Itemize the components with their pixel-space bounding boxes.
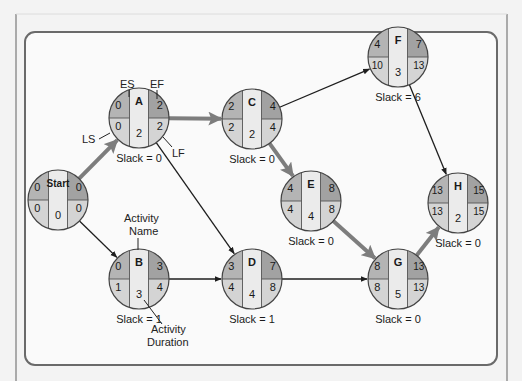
- late-finish-value: 0: [76, 202, 82, 214]
- late-start-value: 2: [228, 121, 234, 133]
- early-start-value: 3: [228, 260, 234, 272]
- activity-duration: 3: [395, 66, 401, 78]
- activity-name: Start: [47, 178, 70, 189]
- early-finish-value: 2: [157, 99, 163, 111]
- late-finish-value: 13: [413, 60, 425, 71]
- slack-label: Slack = 0: [288, 235, 334, 247]
- lf-label: LF: [172, 147, 185, 159]
- slack-label: Slack = 0: [116, 152, 162, 164]
- late-start-value: 4: [228, 281, 234, 293]
- activity-duration: 3: [136, 288, 142, 300]
- activity-name: D: [248, 256, 256, 268]
- network-diagram: 0000Start00202A2Slack = 00314B3Slack = 1…: [0, 0, 522, 381]
- ls-label: LS: [82, 133, 95, 145]
- activity-duration: 4: [308, 210, 314, 222]
- early-start-value: 4: [287, 182, 293, 194]
- early-start-value: 0: [115, 260, 121, 272]
- early-start-value: 0: [34, 181, 40, 193]
- early-finish-value: 3: [157, 260, 163, 272]
- late-finish-value: 2: [157, 120, 163, 132]
- late-start-value: 4: [287, 203, 293, 215]
- late-finish-value: 15: [473, 206, 485, 217]
- diagram-canvas: 0000Start00202A2Slack = 00314B3Slack = 1…: [0, 0, 522, 381]
- late-start-value: 13: [432, 206, 444, 217]
- late-start-value: 1: [115, 281, 121, 293]
- late-finish-value: 8: [270, 281, 276, 293]
- activity-duration: 2: [455, 212, 461, 224]
- activity-duration: 5: [395, 288, 401, 300]
- activity-name: F: [395, 34, 402, 46]
- activity-name: A: [135, 95, 143, 107]
- activity-name-label-line2: Name: [129, 225, 158, 237]
- activity-name: E: [307, 178, 314, 190]
- activity-name: C: [248, 96, 256, 108]
- slack-label: Slack = 1: [229, 313, 275, 325]
- activity-duration: 2: [249, 128, 255, 140]
- node-b: 0314B3Slack = 1: [109, 249, 169, 325]
- activity-duration-label-line1: Activity: [151, 323, 186, 335]
- slack-label: Slack = 0: [435, 237, 481, 249]
- node-d: 3748D4Slack = 1: [222, 249, 282, 325]
- ef-label: EF: [150, 78, 164, 90]
- activity-duration: 4: [249, 288, 255, 300]
- early-finish-value: 0: [76, 181, 82, 193]
- late-start-value: 0: [115, 120, 121, 132]
- late-finish-value: 8: [329, 203, 335, 215]
- node-c: 2424C2Slack = 0: [222, 89, 282, 165]
- node-e: 4848E4Slack = 0: [281, 171, 341, 247]
- early-start-value: 4: [374, 38, 380, 50]
- es-label: ES: [120, 78, 135, 90]
- early-finish-value: 7: [416, 38, 422, 50]
- early-start-value: 2: [228, 100, 234, 112]
- late-finish-value: 13: [413, 282, 425, 293]
- early-finish-value: 8: [329, 182, 335, 194]
- early-finish-value: 7: [270, 260, 276, 272]
- late-start-value: 0: [34, 202, 40, 214]
- early-start-value: 0: [115, 99, 121, 111]
- early-finish-value: 13: [413, 261, 425, 272]
- activity-duration: 0: [55, 209, 61, 221]
- activity-name: G: [394, 256, 403, 268]
- activity-duration-label-line2: Duration: [147, 336, 189, 348]
- node-a: 0202A2Slack = 0: [109, 88, 169, 164]
- activity-name: B: [135, 256, 143, 268]
- slack-label: Slack = 0: [375, 313, 421, 325]
- node-g: 813813G5Slack = 0: [368, 249, 428, 325]
- late-finish-value: 4: [270, 121, 276, 133]
- late-start-value: 8: [374, 281, 380, 293]
- node-f: 471013F3Slack = 6: [368, 27, 428, 103]
- slack-label: Slack = 6: [375, 91, 421, 103]
- early-finish-value: 4: [270, 100, 276, 112]
- early-finish-value: 15: [473, 185, 485, 196]
- node-start: 0000Start0: [28, 170, 88, 230]
- late-start-value: 10: [372, 60, 384, 71]
- early-start-value: 13: [432, 185, 444, 196]
- early-start-value: 8: [374, 260, 380, 272]
- activity-name: H: [454, 180, 462, 192]
- node-h: 13151315H2Slack = 0: [428, 173, 488, 249]
- activity-duration: 2: [136, 127, 142, 139]
- late-finish-value: 4: [157, 281, 163, 293]
- activity-name-label-line1: Activity: [124, 212, 159, 224]
- slack-label: Slack = 0: [229, 153, 275, 165]
